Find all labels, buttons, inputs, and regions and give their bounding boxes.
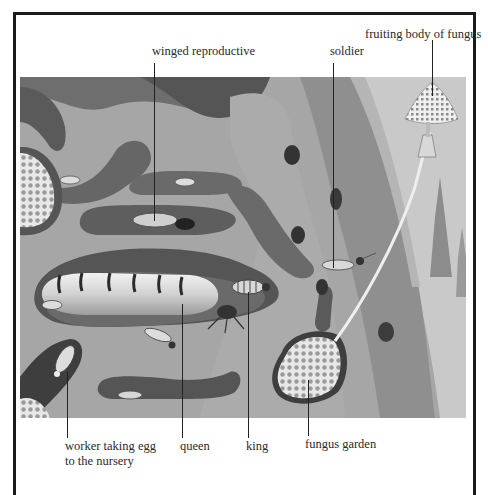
leader-queen xyxy=(182,304,183,438)
label-winged-reproductive: winged reproductive xyxy=(152,44,255,59)
label-fungus-garden: fungus garden xyxy=(305,437,376,452)
label-king: king xyxy=(246,439,268,454)
leader-soldier xyxy=(333,63,334,268)
leader-worker xyxy=(67,372,68,438)
label-worker-line2: to the nursery xyxy=(65,454,134,469)
label-queen: queen xyxy=(180,439,210,454)
leader-winged-reproductive xyxy=(154,63,155,221)
leader-king xyxy=(248,292,249,438)
leader-fungus-garden xyxy=(308,380,309,436)
label-fruiting-body: fruiting body of fungus xyxy=(365,27,481,42)
leader-fruiting-body xyxy=(432,40,433,96)
label-soldier: soldier xyxy=(330,44,364,59)
termite-nest-illustration xyxy=(20,77,466,418)
label-worker-line1: worker taking egg xyxy=(65,439,156,454)
queen-termite xyxy=(42,273,218,315)
